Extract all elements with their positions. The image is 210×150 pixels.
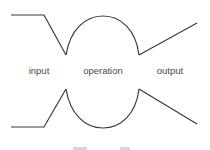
- upper-outline: [11, 15, 197, 55]
- upper-input-line: [11, 15, 66, 55]
- lower-input-line: [11, 89, 66, 127]
- lower-operation-arc: [66, 89, 139, 128]
- upper-output-line: [139, 23, 197, 55]
- output-label: output: [157, 65, 184, 76]
- input-label: input: [29, 65, 50, 76]
- upper-operation-arc: [66, 16, 139, 55]
- figure-caption-truncated: [73, 147, 130, 150]
- lower-outline: [11, 89, 197, 128]
- lower-output-line: [139, 89, 197, 124]
- input-operation-output-diagram: input operation output: [0, 0, 210, 150]
- operation-label: operation: [83, 65, 123, 76]
